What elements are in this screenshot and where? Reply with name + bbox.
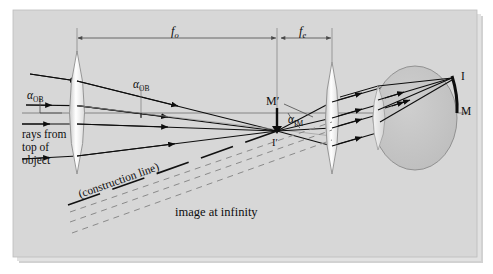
label-retina-i: I — [461, 70, 465, 82]
label-image-at-infinity: image at infinity — [175, 205, 258, 219]
label-rays-from-line3: object — [22, 154, 51, 167]
label-rays-from-line1: rays from — [22, 128, 66, 141]
figure-root: fo fe — [0, 0, 493, 274]
label-rays-from-line2: top of — [22, 141, 49, 154]
optical-diagram: fo fe — [0, 0, 493, 274]
label-i-prime: I′ — [272, 137, 278, 148]
label-m-prime: M′ — [266, 94, 280, 108]
label-retina-m: M — [461, 105, 471, 117]
